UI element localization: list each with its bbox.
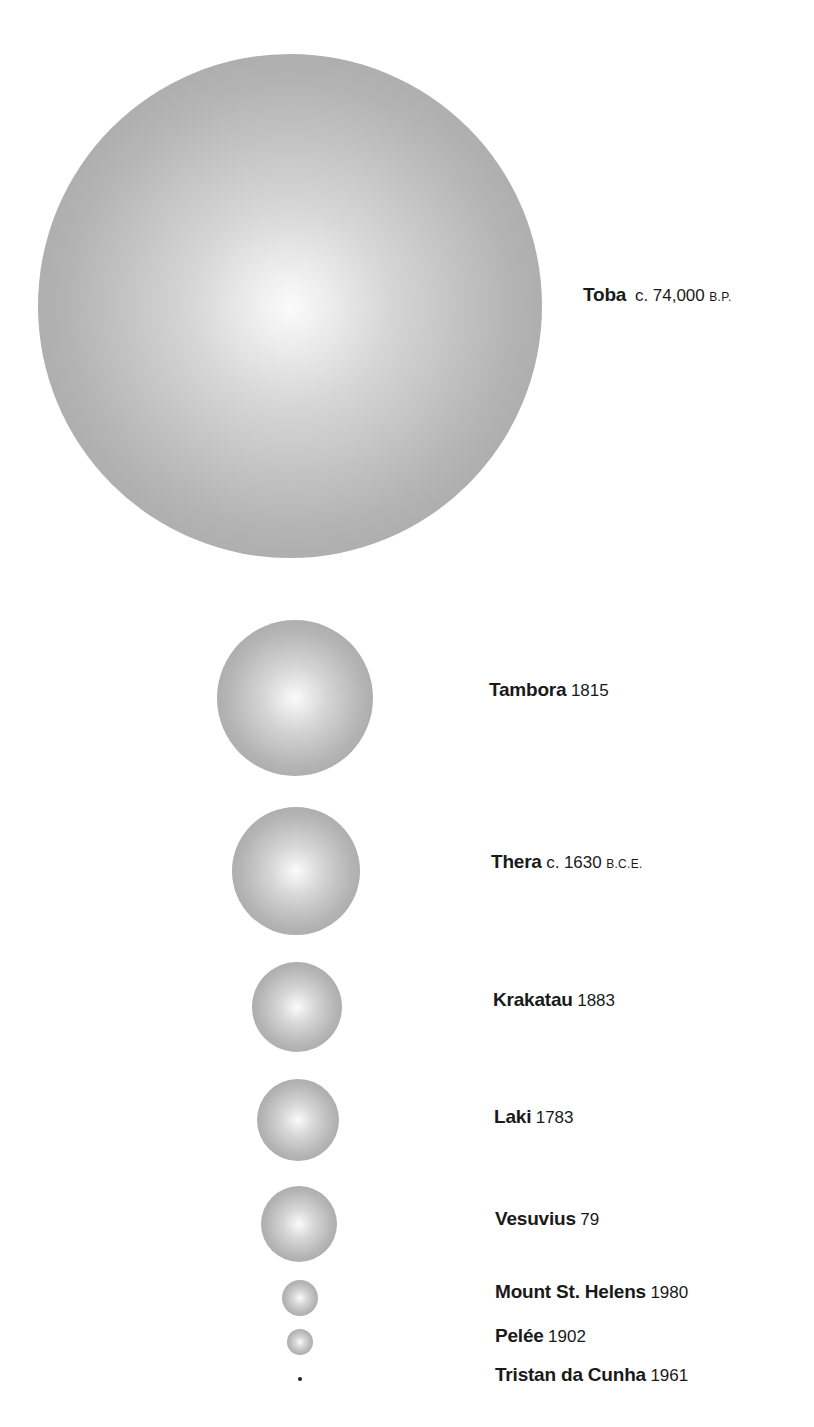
label-date: 1883 [577,991,615,1010]
label-tambora: Tambora 1815 [489,680,609,699]
label-date: 1961 [650,1366,688,1385]
label-name: Toba [583,284,626,305]
label-thera: Thera c. 1630 B.C.E. [491,852,643,871]
label-date: 1815 [571,681,609,700]
label-name: Laki [494,1106,531,1127]
label-name: Pelée [495,1325,544,1346]
sphere-vesuvius [261,1186,337,1262]
label-toba: Toba c. 74,000 B.P. [583,285,732,304]
label-tristan-da-cunha: Tristan da Cunha 1961 [495,1365,688,1384]
sphere-laki [257,1079,339,1161]
label-laki: Laki 1783 [494,1107,574,1126]
label-date: 1783 [536,1108,574,1127]
label-era: B.C.E. [606,857,642,871]
sphere-pelee [287,1329,313,1355]
sphere-tristan-da-cunha [298,1377,302,1381]
label-name: Tristan da Cunha [495,1364,646,1385]
label-date: 1630 [564,853,602,872]
sphere-toba [38,54,542,558]
sphere-tambora [217,620,373,776]
label-krakatau: Krakatau 1883 [493,990,615,1009]
label-date: 1980 [650,1283,688,1302]
label-name: Krakatau [493,989,573,1010]
label-pelee: Pelée 1902 [495,1326,586,1345]
label-vesuvius: Vesuvius 79 [495,1209,599,1228]
label-date: 1902 [548,1327,586,1346]
sphere-krakatau [252,962,342,1052]
label-date: 74,000 [653,286,705,305]
label-date: 79 [580,1210,599,1229]
sphere-mount-st-helens [282,1280,318,1316]
label-circa: c. [635,286,648,305]
label-name: Thera [491,851,542,872]
label-era: B.P. [709,290,731,304]
label-name: Mount St. Helens [495,1281,646,1302]
label-name: Tambora [489,679,566,700]
label-circa: c. [546,853,559,872]
label-name: Vesuvius [495,1208,576,1229]
sphere-thera [232,807,360,935]
label-mount-st-helens: Mount St. Helens 1980 [495,1282,688,1301]
